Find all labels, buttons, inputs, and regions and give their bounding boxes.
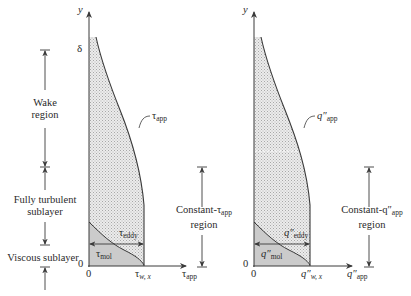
constant-q-label: Constant-q″app region <box>334 204 410 231</box>
left-y-axis-label: y <box>78 4 83 16</box>
q-wall-label: q″w, x <box>301 268 322 283</box>
q-app-leader <box>304 116 315 128</box>
q-app-curve-label: q″app <box>317 110 337 125</box>
constant-tau-label: Constant-τapp region <box>166 204 242 231</box>
q-mol-label: q″mol <box>261 248 282 263</box>
right-origin-x: 0 <box>251 268 256 280</box>
fully-turbulent-sublayer-label: Fully turbulent sublayer <box>4 194 86 218</box>
tau-wall-label: τw, x <box>135 268 151 283</box>
right-y-axis-label: y <box>243 4 248 16</box>
tau-app-curve-label: τapp <box>152 110 167 125</box>
tau-mol-label: τmol <box>96 248 112 263</box>
tau-x-axis-label: τapp <box>182 268 197 283</box>
delta-label: δ <box>77 42 82 54</box>
tau-app-leader <box>139 116 150 128</box>
tau-eddy-label: τeddy <box>119 227 138 242</box>
right-origin-y: 0 <box>243 258 248 270</box>
wake-region-label: Wake region <box>18 97 72 121</box>
left-origin-x: 0 <box>86 268 91 280</box>
q-eddy-label: q″eddy <box>284 227 308 242</box>
viscous-sublayer-label: Viscous sublayer <box>0 252 86 264</box>
q-x-axis-label: q″app <box>347 268 367 283</box>
